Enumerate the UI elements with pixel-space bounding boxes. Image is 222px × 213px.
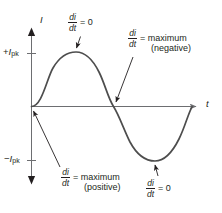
fraction-numerator: di bbox=[146, 179, 155, 188]
leader-trough bbox=[155, 165, 158, 176]
annotation-text: = maximum (negative) bbox=[140, 33, 191, 53]
tick-subscript-positive: pk bbox=[11, 50, 19, 57]
annotation-equals: = 0 bbox=[158, 183, 171, 193]
annotation-equals: = 0 bbox=[80, 17, 93, 27]
annotation-peak-zero-slope: di dt = 0 bbox=[68, 14, 93, 34]
leader-origin bbox=[34, 111, 61, 167]
fraction-denominator: dt bbox=[128, 38, 137, 48]
annotation-trough-zero-slope: di dt = 0 bbox=[146, 180, 171, 200]
fraction-denominator: dt bbox=[146, 188, 155, 198]
fraction-denominator: dt bbox=[68, 22, 77, 32]
leader-peak bbox=[77, 37, 81, 49]
fraction-numerator: di bbox=[61, 168, 70, 177]
y-tick-label-negative-peak: −Ipk bbox=[4, 154, 20, 165]
fraction-di-dt: di dt bbox=[61, 168, 70, 188]
annotation-equals: = maximum bbox=[73, 172, 120, 182]
tick-subscript-negative: pk bbox=[12, 157, 20, 164]
fraction-di-dt: di dt bbox=[128, 29, 137, 49]
annotation-equals: = maximum bbox=[140, 33, 187, 43]
annotation-qualifier: (positive) bbox=[73, 182, 121, 192]
annotation-text: = 0 bbox=[80, 17, 93, 27]
fraction-di-dt: di dt bbox=[146, 179, 155, 199]
waveform-figure: I t +Ipk −Ipk di dt = 0 di dt = maximum … bbox=[0, 0, 222, 213]
annotation-qualifier: (negative) bbox=[140, 43, 191, 53]
annotation-origin-max-positive-slope: di dt = maximum (positive) bbox=[61, 169, 121, 189]
x-axis-label: t bbox=[206, 99, 209, 110]
annotation-descending-zero-crossing: di dt = maximum (negative) bbox=[128, 30, 191, 50]
annotation-text: = maximum (positive) bbox=[73, 172, 121, 192]
y-tick-label-positive-peak: +Ipk bbox=[3, 47, 19, 58]
y-axis-label: I bbox=[40, 15, 43, 26]
fraction-numerator: di bbox=[68, 13, 77, 22]
annotation-text: = 0 bbox=[158, 183, 171, 193]
fraction-di-dt: di dt bbox=[68, 13, 77, 33]
leader-mid-crossing bbox=[116, 57, 133, 102]
fraction-denominator: dt bbox=[61, 177, 70, 187]
fraction-numerator: di bbox=[128, 29, 137, 38]
